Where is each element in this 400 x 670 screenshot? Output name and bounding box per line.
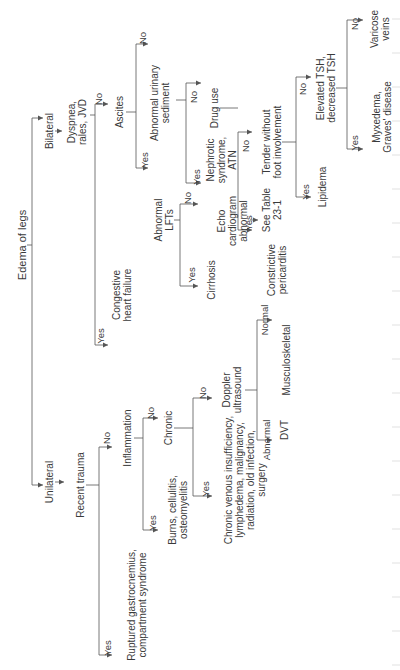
answer-yes: Yes: [102, 640, 113, 656]
arrowhead-icon: [107, 445, 112, 450]
answer-yes: Yes: [147, 515, 158, 531]
node-edema-of-legs: Edema of legs: [17, 210, 28, 280]
node-doppler-ultrasound: Doppler ultrasound: [221, 367, 243, 414]
node-abnormal-urinary-sediment: Abnormal urinary sediment: [149, 65, 171, 141]
arrowhead-icon: [253, 218, 258, 223]
node-ascites: Ascites: [114, 96, 125, 128]
answer-yes: Yes: [186, 267, 197, 283]
answer-yes: Yes: [200, 481, 211, 497]
flowchart-canvas: Edema of legs Bilateral Unilateral Dyspn…: [0, 0, 400, 670]
node-lipidema: Lipidema: [317, 167, 328, 208]
node-tender-without-foot-involvement: Tender without foot involvement: [261, 106, 283, 179]
node-constrictive-pericarditis: Constrictive pericarditis: [266, 244, 288, 296]
answer-yes: Yes: [300, 184, 311, 200]
node-chronic: Chronic: [163, 411, 174, 445]
arrowhead-icon: [207, 396, 212, 401]
node-see-table-23-1: See Table 23-1: [261, 188, 283, 232]
answer-no: No: [197, 387, 208, 399]
arrowhead-icon: [38, 483, 43, 488]
answer-no: No: [297, 83, 308, 95]
arrowhead-icon: [193, 202, 198, 207]
node-abnormal-lfts: Abnormal LFTs: [153, 199, 175, 242]
node-elevated-tsh-decreased-tsh: Elevated TSH, decreased TSH: [315, 53, 337, 122]
answer-no: No: [101, 432, 112, 444]
answer-normal: Normal: [259, 305, 270, 336]
node-congestive-heart-failure: Congestive heart failure: [111, 269, 133, 322]
arrowhead-icon: [38, 116, 43, 121]
arrowhead-icon: [57, 129, 62, 134]
connector-lines: [0, 0, 400, 670]
answer-yes: Yes: [139, 152, 150, 168]
node-myxedema-graves-disease: Myxedema, Graves' disease: [371, 81, 393, 152]
node-ruptured-gastrocnemius: Ruptured gastrocnemius, compartment synd…: [126, 549, 148, 661]
answer-yes: Yes: [243, 215, 254, 231]
node-cirrhosis: Cirrhosis: [206, 260, 217, 299]
answer-yes: Yes: [95, 328, 106, 344]
node-dyspnea-rales-jvd: Dyspnea, rales, JVD: [66, 99, 88, 145]
answer-no: No: [137, 32, 148, 44]
arrowhead-icon: [193, 284, 198, 289]
node-musculoskeletal: Musculoskeletal: [281, 324, 292, 395]
node-dvt: DVT: [279, 420, 290, 440]
node-burns-cellulitis-osteomyelitis: Burns, cellulitis, osteomyelitis: [167, 475, 189, 544]
arrowhead-icon: [103, 102, 108, 107]
arrowhead-icon: [306, 75, 311, 80]
node-recent-trauma: Recent trauma: [75, 452, 86, 518]
page-bleed-through: [392, 0, 400, 670]
arrowhead-icon: [59, 480, 64, 485]
node-varicose-veins: Varicose veins: [369, 10, 391, 48]
node-nephrotic-syndrome-atn: Nephrotic syndrome, ATN: [205, 137, 238, 184]
answer-no: No: [349, 18, 360, 30]
arrowhead-icon: [196, 81, 201, 86]
answer-abnormal: Abnormal: [261, 420, 272, 461]
arrowhead-icon: [247, 130, 252, 135]
answer-no: No: [145, 407, 156, 419]
answer-yes: Yes: [191, 169, 202, 185]
node-drug-use: Drug use: [209, 88, 220, 129]
answer-no: No: [93, 93, 104, 105]
node-bilateral: Bilateral: [44, 113, 55, 149]
answer-no: No: [240, 140, 251, 152]
answer-yes: Yes: [349, 135, 360, 151]
node-unilateral: Unilateral: [44, 461, 55, 503]
answer-no: No: [182, 192, 193, 204]
answer-no: No: [188, 91, 199, 103]
node-inflammation: Inflammation: [122, 409, 133, 466]
